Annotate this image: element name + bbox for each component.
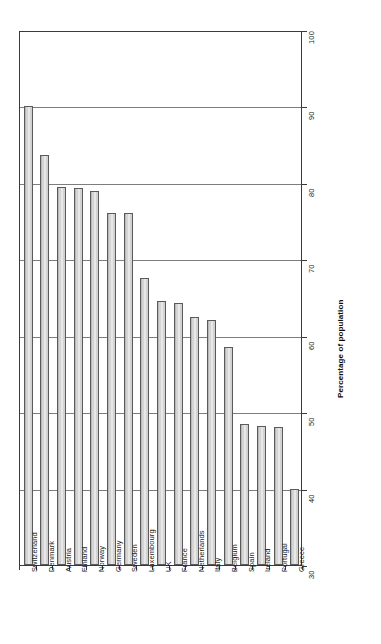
x-category-label: Portugal xyxy=(280,543,289,572)
x-category-label: Italy xyxy=(213,558,222,572)
y-tick-label-50: 50 xyxy=(307,400,316,426)
y-tick-label-100: 100 xyxy=(307,18,316,44)
y-tick-label-80: 80 xyxy=(307,171,316,197)
bar xyxy=(174,303,183,565)
x-category-label: Spain xyxy=(247,552,256,572)
x-category-label: France xyxy=(180,548,189,572)
x-category-label: Greece xyxy=(297,547,306,572)
plot-area xyxy=(19,31,302,566)
y-tick-label-90: 90 xyxy=(307,94,316,120)
bar xyxy=(224,347,233,565)
x-category-label: Switzerland xyxy=(30,532,39,572)
bar xyxy=(74,188,83,565)
bar xyxy=(90,191,99,566)
bar xyxy=(40,155,49,565)
y-tick-label-70: 70 xyxy=(307,247,316,273)
bar xyxy=(190,317,199,565)
bar xyxy=(240,424,249,565)
bars-layer xyxy=(20,32,301,565)
bar-chart: 30405060708090100 SwitzerlandDenmarkAust… xyxy=(0,0,381,644)
bar xyxy=(57,187,66,565)
x-category-label: Belgium xyxy=(230,544,239,572)
x-category-label: Norway xyxy=(97,546,106,572)
x-category-label: Finland xyxy=(80,547,89,572)
y-tick-label-30: 30 xyxy=(307,553,316,579)
bar xyxy=(124,213,133,565)
x-category-label: Ireland xyxy=(263,548,272,572)
x-tick-mark xyxy=(19,566,20,570)
y-axis-title: Percentage of population xyxy=(336,300,345,398)
bar xyxy=(157,301,166,565)
x-category-label: Sweden xyxy=(130,544,139,572)
bar xyxy=(24,106,33,565)
x-category-label: Netherlands xyxy=(197,530,206,572)
bar xyxy=(107,213,116,565)
x-category-label: Denmark xyxy=(47,541,56,572)
x-category-label: UK xyxy=(164,561,173,572)
x-category-label: Luxembourg xyxy=(147,529,156,572)
y-tick-label-60: 60 xyxy=(307,324,316,350)
bar xyxy=(257,426,266,565)
bar xyxy=(140,278,149,565)
x-category-label: Germany xyxy=(114,540,123,572)
bar xyxy=(207,320,216,565)
x-category-label: Austria xyxy=(64,548,73,572)
y-tick-label-40: 40 xyxy=(307,477,316,503)
